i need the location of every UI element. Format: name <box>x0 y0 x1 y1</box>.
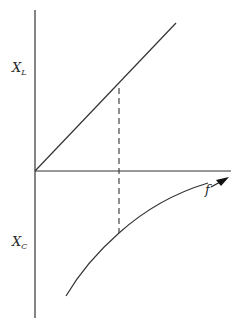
xc-label: XC <box>12 235 27 251</box>
reactance-frequency-diagram <box>0 0 241 325</box>
capacitive-reactance-curve <box>66 183 208 296</box>
frequency-label: f <box>205 183 210 196</box>
frequency-arrow-icon <box>211 177 229 187</box>
xl-label: XL <box>12 61 27 77</box>
inductive-reactance-line <box>35 23 176 171</box>
